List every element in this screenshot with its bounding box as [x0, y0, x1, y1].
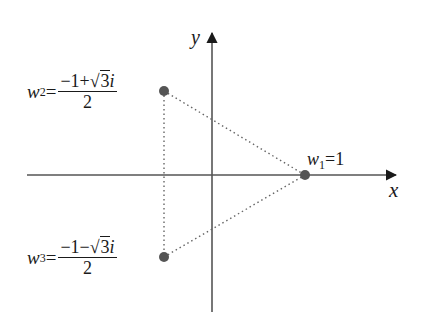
label-w3: w3= −1−√3i 2: [27, 238, 117, 277]
w2-denominator: 2: [83, 92, 92, 111]
w3-fraction: −1−√3i 2: [58, 238, 116, 277]
w1-value: 1: [335, 149, 344, 169]
edge-w2-w1: [164, 91, 305, 175]
w1-equals: =: [325, 149, 335, 169]
w2-fraction: −1+√3i 2: [58, 72, 116, 111]
edge-w3-w1: [164, 175, 305, 257]
w2-name: w: [27, 82, 40, 101]
point-w1: [300, 170, 310, 180]
w2-numerator: −1+√3i: [58, 72, 116, 92]
y-axis-label: y: [191, 27, 200, 47]
label-w1: w1=1: [307, 150, 344, 171]
w3-name: w: [27, 248, 40, 267]
x-axis-label: x: [389, 180, 398, 201]
sqrt-symbol: √: [90, 71, 100, 91]
w3-denominator: 2: [83, 258, 92, 277]
w1-name: w: [307, 149, 319, 169]
point-w2: [159, 86, 169, 96]
w2-equals: =: [46, 82, 57, 101]
triangle-edges: [164, 91, 305, 257]
w3-numerator: −1−√3i: [58, 238, 116, 258]
w3-equals: =: [46, 248, 57, 267]
sqrt-symbol: √: [90, 237, 100, 257]
point-w3: [159, 252, 169, 262]
label-w2: w2= −1+√3i 2: [27, 72, 117, 111]
